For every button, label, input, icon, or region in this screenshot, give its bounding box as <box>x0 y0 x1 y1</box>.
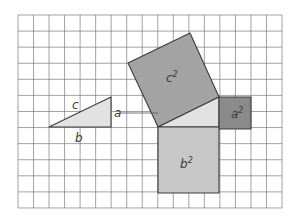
label-a: a <box>114 106 121 120</box>
label-c: c <box>72 98 79 112</box>
pythagorean-diagram: c a b c2 a2 b2 <box>0 0 293 219</box>
label-b: b <box>75 131 83 145</box>
diagram-canvas: c a b c2 a2 b2 <box>0 0 293 219</box>
